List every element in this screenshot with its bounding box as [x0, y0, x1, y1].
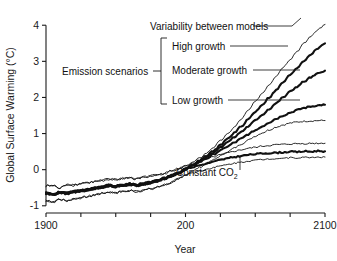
annotation-variability-between-models: Variability between models — [150, 21, 268, 32]
annotation-high-growth: High growth — [172, 41, 225, 52]
annotation-moderate-growth: Moderate growth — [172, 65, 247, 76]
y-axis-tick-labels: -101234 — [30, 19, 40, 212]
x-tick-label-2100: 2100 — [313, 219, 337, 231]
x-axis-title: Year — [174, 243, 196, 255]
x-axis-tick-labels: 19002002100 — [34, 219, 337, 231]
y-tick-label-2: 2 — [33, 91, 39, 103]
y-tick-label-0: 0 — [33, 163, 39, 175]
y-axis-ticks — [42, 25, 46, 206]
y-tick-label-1: 1 — [33, 127, 39, 139]
annotation-constant-co2: Constant CO2 — [176, 167, 238, 180]
annotation-low-growth: Low growth — [172, 95, 223, 106]
annotation-emission-scenarios: Emission scenarios — [62, 66, 148, 77]
chart-svg: -101234 19002002100 Global Surface Warmi… — [0, 0, 337, 261]
x-tick-label-2000: 200 — [177, 219, 195, 231]
x-tick-label-1900: 1900 — [34, 219, 58, 231]
series-constant-co2-lower-bound — [46, 157, 325, 203]
y-tick-label--1: -1 — [30, 199, 39, 211]
axes-group — [42, 25, 325, 217]
series-low-growth — [46, 104, 325, 194]
y-tick-label-3: 3 — [33, 55, 39, 67]
emission-scenarios-bracket — [161, 38, 167, 104]
y-axis-title: Global Surface Warming (°C) — [4, 47, 16, 183]
series-constant-co2-upper-bound — [46, 143, 325, 189]
x-axis-ticks — [46, 213, 325, 217]
chart-container: -101234 19002002100 Global Surface Warmi… — [0, 0, 337, 261]
y-tick-label-4: 4 — [33, 19, 39, 31]
